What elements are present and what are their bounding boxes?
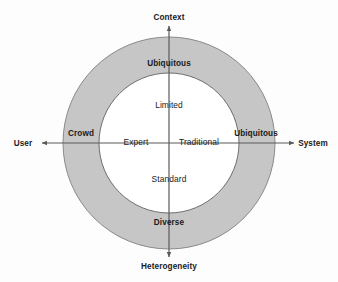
ring-label-bottom-diverse: Diverse bbox=[154, 218, 184, 227]
core-label-left-expert: Expert bbox=[124, 137, 149, 147]
axis-label-heterogeneity: Heterogeneity bbox=[141, 262, 197, 271]
axis-label-user: User bbox=[14, 139, 33, 148]
ring-label-right-ubiquitous: Ubiquitous bbox=[234, 129, 278, 138]
diagram-graphics bbox=[0, 0, 338, 282]
core-label-top-limited: Limited bbox=[155, 100, 183, 110]
diagram-canvas: Context Heterogeneity User System Ubiqui… bbox=[0, 0, 338, 282]
axis-label-system: System bbox=[298, 139, 328, 148]
core-label-right-traditional: Traditional bbox=[179, 137, 219, 147]
ring-label-top-ubiquitous: Ubiquitous bbox=[147, 59, 191, 68]
axis-label-context: Context bbox=[153, 13, 184, 22]
core-label-bottom-standard: Standard bbox=[152, 174, 187, 184]
ring-label-left-crowd: Crowd bbox=[68, 129, 94, 138]
